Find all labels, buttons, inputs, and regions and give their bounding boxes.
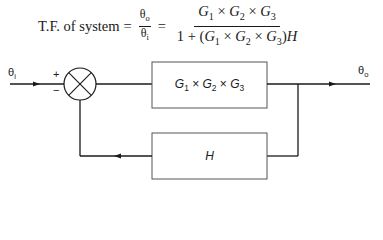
input-arrow-icon (33, 82, 40, 87)
feedback-out-arrow-icon (114, 154, 121, 159)
input-label: θi (8, 66, 16, 81)
output-arrow-icon (329, 82, 336, 87)
summing-junction-icon (64, 68, 96, 100)
sum-plus-sign: + (53, 68, 59, 80)
output-label: θo (358, 64, 368, 79)
sum-minus-sign: − (53, 84, 59, 96)
feedback-block-text: H (205, 149, 214, 163)
forward-block-label: G1 × G2 × G3 (152, 62, 267, 108)
feedback-block-label: H (152, 133, 267, 179)
